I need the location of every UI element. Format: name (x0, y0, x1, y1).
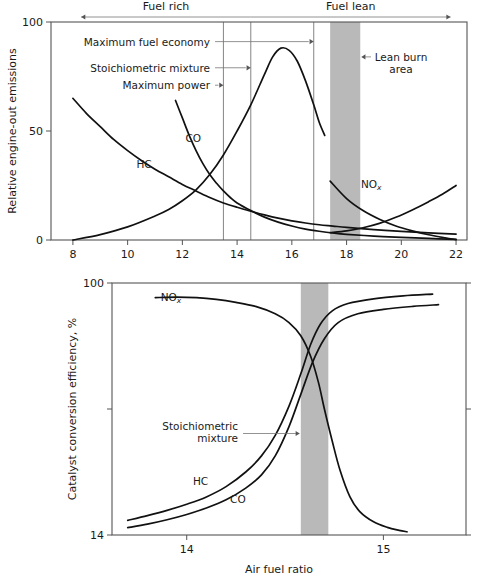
annot-max-fuel-economy-text: Maximum fuel economy (84, 36, 210, 48)
fuel-rich-label: Fuel rich (143, 0, 190, 13)
annot-stoichiometric-mixture-text: Stoichiometric mixture (90, 62, 210, 74)
bottom-ytick-label-2: 100 (83, 277, 104, 290)
lean-burn-band (330, 22, 360, 240)
bottom-xtick-label-0: 14 (180, 543, 194, 556)
top-ytick-label-0: 0 (36, 234, 43, 247)
annot-lean-burn-line2: area (389, 63, 412, 75)
top-xtick-label-7: 22 (449, 248, 463, 261)
bottom-annot-stoich-arrowhead-icon (296, 431, 300, 436)
bottom-curve-hc (128, 294, 433, 520)
top-xtick-label-1: 10 (121, 248, 135, 261)
bottom-ytick-label-0: 14 (90, 529, 104, 542)
bottom-annot-stoich-line2: mixture (197, 432, 238, 444)
fuel-lean-label: Fuel lean (326, 0, 376, 13)
fuel-rich-arrowhead-icon (81, 14, 85, 19)
annot-max-fuel-economy-arrowhead-icon (310, 39, 314, 44)
annot-max-power-arrowhead-icon (219, 83, 223, 88)
bottom-label-nox: NOx (161, 291, 182, 306)
top-ylabel: Relative engine-out emissions (6, 48, 19, 214)
top-label-hc: HC (136, 158, 151, 170)
top-label-nox: NOx (361, 178, 382, 193)
annot-lean-burn-arrowhead-icon (361, 54, 365, 59)
bottom-xlabel: Air fuel ratio (245, 563, 313, 576)
top-xtick-label-6: 20 (394, 248, 408, 261)
bottom-plot-frame (112, 283, 466, 535)
bottom-ylabel: Catalyst conversion efficiency, % (66, 318, 79, 500)
bottom-curve-nox (155, 297, 407, 532)
figure-canvas: Fuel richFuel lean050100810121416182022H… (0, 0, 486, 579)
top-curve-co (176, 100, 457, 239)
top-curve-hc (73, 98, 456, 234)
fuel-lean-arrowhead-icon (446, 14, 450, 19)
bottom-annot-stoich-line1: Stoichiometric (162, 420, 238, 432)
top-xtick-label-2: 12 (175, 248, 189, 261)
bottom-label-co: CO (230, 493, 246, 505)
annot-lean-burn-line1: Lean burn (375, 51, 428, 63)
top-xtick-label-0: 8 (69, 248, 76, 261)
top-xtick-label-3: 14 (230, 248, 244, 261)
top-xtick-label-4: 16 (285, 248, 299, 261)
emissions-figure: Fuel richFuel lean050100810121416182022H… (0, 0, 486, 579)
annot-stoichiometric-mixture-arrowhead-icon (247, 65, 251, 70)
top-xtick-label-5: 18 (340, 248, 354, 261)
bottom-label-hc: HC (193, 475, 208, 487)
top-ytick-label-2: 100 (22, 16, 43, 29)
top-label-co: CO (186, 132, 202, 144)
bottom-curve-co (128, 305, 439, 528)
bottom-xtick-label-1: 15 (376, 543, 390, 556)
top-ytick-label-1: 50 (29, 125, 43, 138)
annot-max-power-text: Maximum power (122, 79, 210, 91)
